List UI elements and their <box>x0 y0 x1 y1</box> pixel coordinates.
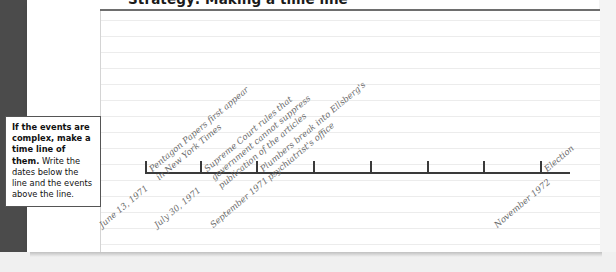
page-title: Strategy: Making a time line <box>128 0 458 7</box>
time-line-tick <box>313 161 315 173</box>
time-line-tick <box>145 161 147 173</box>
callout-text: If the events are complex, make a time l… <box>12 122 94 200</box>
rule-line <box>101 20 600 21</box>
time-line-tick <box>200 161 202 173</box>
rule-line <box>101 180 600 181</box>
rule-line <box>101 68 600 69</box>
rule-line <box>101 52 600 53</box>
rule-line <box>101 244 600 245</box>
right-page-gutter <box>599 0 616 272</box>
time-line-tick <box>427 161 429 173</box>
time-line-tick <box>370 161 372 173</box>
page-shadow-edge <box>30 252 602 257</box>
callout-box: If the events are complex, make a time l… <box>5 116 101 207</box>
rule-line <box>101 132 600 133</box>
time-line-tick <box>483 161 485 173</box>
rule-line <box>101 228 600 229</box>
screenshot-canvas: Strategy: Making a time line Pentagon Pa… <box>0 0 616 272</box>
time-line-tick <box>540 161 542 173</box>
rule-line <box>101 36 600 37</box>
rule-line <box>101 84 600 85</box>
